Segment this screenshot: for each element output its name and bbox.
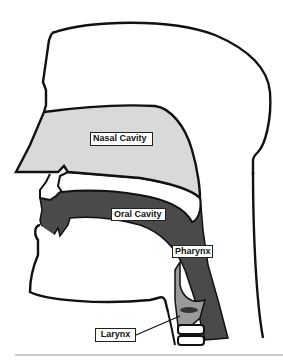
neck-back-outline [253,172,263,338]
label-pharynx: Pharynx [172,245,213,258]
trachea-ring-2 [178,336,204,345]
jaw-outline [30,225,168,312]
label-oral-cavity: Oral Cavity [111,208,166,221]
trachea-ring-1 [178,325,204,334]
head-anatomy-diagram [0,0,283,362]
vocal-cords [180,307,198,313]
forehead-outline [43,33,52,112]
label-larynx: Larynx [95,328,136,342]
throat-front-outline [168,312,175,345]
label-nasal-cavity: Nasal Cavity [90,132,153,146]
upper-lip [40,174,60,200]
